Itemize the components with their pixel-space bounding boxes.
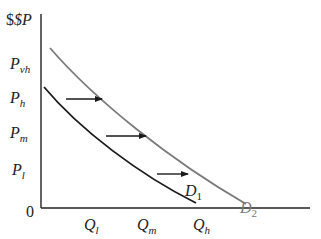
x-tick-main: Q: [193, 216, 205, 233]
x-tick-sub: m: [149, 224, 157, 236]
y-axis-label: $$P: [6, 11, 32, 28]
y-axis-label-text: $P: [14, 11, 32, 28]
x-tick-sub: l: [96, 224, 99, 236]
curve-label-main: D: [184, 182, 197, 199]
x-tick-main: Q: [84, 216, 96, 233]
y-tick-sub: m: [20, 132, 28, 144]
origin-label: 0: [26, 203, 34, 220]
curve-label-d2: D2: [239, 199, 257, 219]
demand-curve-d2: [50, 48, 246, 204]
x-tick-q-l: Ql: [84, 216, 99, 236]
x-tick-main: Q: [137, 216, 149, 233]
y-tick-main: P: [9, 55, 20, 72]
y-tick-sub: vh: [20, 63, 31, 75]
y-tick-p-l: Pl: [11, 161, 25, 181]
y-tick-p-vh: Pvh: [9, 55, 31, 75]
y-tick-sub: l: [22, 169, 25, 181]
demand-curve-d1: [44, 87, 196, 203]
y-tick-p-m: Pm: [9, 124, 28, 144]
x-tick-q-h: Qh: [193, 216, 211, 236]
y-tick-main: P: [11, 161, 22, 178]
y-tick-sub: h: [20, 97, 26, 109]
curve-label-sub: 1: [197, 190, 203, 202]
x-tick-sub: h: [205, 224, 211, 236]
y-tick-main: P: [9, 89, 20, 106]
demand-shift-diagram: $$P Pvh Ph Pm Pl 0 Ql Qm Qh D1 D2: [0, 0, 321, 239]
y-tick-p-h: Ph: [9, 89, 26, 109]
x-tick-q-m: Qm: [137, 216, 157, 236]
curve-label-main: D: [239, 199, 252, 216]
y-tick-main: P: [9, 124, 20, 141]
curve-label-sub: 2: [252, 207, 258, 219]
